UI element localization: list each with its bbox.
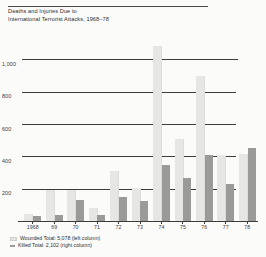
x-axis-tick-label: 1968 [21,224,45,230]
chart-legend: Wounded Total: 5,078 (left column) Kille… [10,235,100,249]
legend-label-killed: Killed Total: 2,102 (right column) [18,242,92,249]
bar-wounded-70 [67,190,76,221]
legend-item-killed: Killed Total: 2,102 (right column) [10,242,100,249]
bar-wounded-73 [132,188,141,221]
x-axis-tick-label: 76 [192,224,216,230]
bar-wounded-74 [153,46,162,221]
bar-group [132,40,149,221]
bar-group [110,40,127,221]
bar-group [46,40,63,221]
y-axis-tick-label: 800 [2,93,20,99]
chart-title-line-2: International Terrorist Attacks, 1968–78 [8,16,218,24]
bar-group [89,40,106,221]
legend-swatch-wounded-icon [10,237,17,241]
bar-wounded-69 [46,190,55,221]
chart-title-line-1: Deaths and Injuries Due to [8,8,218,16]
legend-label-wounded: Wounded Total: 5,078 (left column) [20,235,100,242]
bar-group [196,40,213,221]
bar-killed-76 [205,155,213,221]
bar-group [153,40,170,221]
x-axis-tick-label: 73 [128,224,152,230]
bar-wounded-76 [196,76,205,221]
x-axis-tick-label: 75 [171,224,195,230]
y-axis-tick-label: 400 [2,158,20,164]
bar-group [24,40,41,221]
x-axis-tick-label: 69 [42,224,66,230]
bar-group [67,40,84,221]
bar-wounded-77 [217,155,226,221]
legend-item-wounded: Wounded Total: 5,078 (left column) [10,235,100,242]
bar-wounded-71 [89,208,98,221]
bar-wounded-78 [239,154,248,221]
bar-group [239,40,256,221]
bar-wounded-1968 [24,214,33,221]
x-axis-tick-label: 71 [85,224,109,230]
x-axis-tick-label: 78 [235,224,259,230]
bar-killed-72 [119,197,127,221]
bar-killed-78 [248,148,256,221]
x-axis-tick-label: 77 [214,224,238,230]
x-axis-line [18,221,258,222]
bar-killed-75 [183,178,191,221]
y-axis-tick-label: 1,000 [2,61,20,67]
bar-wounded-72 [110,171,119,221]
bar-killed-70 [76,200,84,221]
legend-swatch-killed-icon [10,245,15,247]
bar-group [217,40,234,221]
x-axis-tick-label: 72 [107,224,131,230]
title-rule [8,6,208,7]
chart-root: Deaths and Injuries Due to International… [0,0,266,257]
x-axis-tick-label: 74 [149,224,173,230]
y-axis-tick-label: 600 [2,126,20,132]
chart-title: Deaths and Injuries Due to International… [8,8,218,23]
bar-killed-73 [140,201,148,221]
bar-series-container: 196869707172737475767778 [22,40,258,221]
bar-group [175,40,192,221]
bar-wounded-75 [175,139,184,221]
plot-area: 2004006008001,000 1968697071727374757677… [22,40,258,221]
x-axis-tick-label: 70 [64,224,88,230]
y-axis-tick-label: 200 [2,190,20,196]
bar-killed-77 [226,184,234,221]
bar-killed-74 [162,165,170,221]
